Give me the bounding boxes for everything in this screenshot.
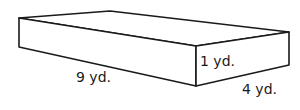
length-label: 9 yd. — [76, 69, 111, 85]
height-label: 1 yd. — [200, 53, 235, 69]
width-label: 4 yd. — [242, 81, 277, 97]
rectangular-prism-diagram: 9 yd. 1 yd. 4 yd. — [0, 0, 300, 110]
